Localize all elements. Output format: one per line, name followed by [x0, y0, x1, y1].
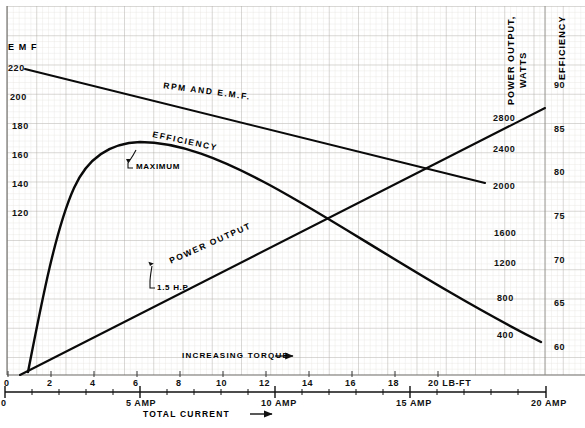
chart-svg — [0, 0, 585, 428]
annotation-maximum: MAXIMUM — [136, 162, 180, 171]
efficiency-tick-90: 90 — [554, 80, 565, 90]
torque-tick-8: 8 — [176, 378, 182, 388]
power-tick-800: 800 — [497, 293, 514, 303]
left-tick-140: 140 — [12, 179, 29, 189]
left-tick-220: 220 — [8, 63, 25, 73]
torque-tick-6: 6 — [133, 378, 139, 388]
chart-canvas: E M F 220 200 180 160 140 120 POWER OUTP… — [0, 0, 585, 428]
power-tick-2800: 2800 — [493, 113, 515, 123]
left-tick-160: 160 — [12, 150, 29, 160]
left-axis-title: E M F — [8, 42, 38, 52]
power-axis-title-2: WATTS — [518, 52, 528, 88]
efficiency-tick-80: 80 — [554, 167, 565, 177]
power-tick-1600: 1600 — [494, 228, 516, 238]
current-tick-20: 20 AMP — [531, 398, 567, 408]
power-tick-2400: 2400 — [493, 144, 515, 154]
left-tick-180: 180 — [12, 121, 29, 131]
torque-tick-18: 18 — [388, 378, 399, 388]
efficiency-axis-title: EFFICIENCY — [557, 15, 567, 80]
annotation-hp: 1.5 H.P. — [157, 283, 190, 292]
current-tick-15: 15 AMP — [396, 398, 432, 408]
torque-tick-0: 0 — [4, 378, 10, 388]
torque-tick-20: 20 LB-FT — [428, 378, 471, 388]
left-tick-120: 120 — [12, 208, 29, 218]
efficiency-tick-85: 85 — [554, 124, 565, 134]
torque-tick-10: 10 — [216, 378, 227, 388]
efficiency-tick-60: 60 — [554, 342, 565, 352]
torque-tick-4: 4 — [90, 378, 96, 388]
power-tick-1200: 1200 — [494, 258, 516, 268]
increasing-torque-caption: INCREASING TORQUE — [182, 351, 289, 360]
efficiency-tick-70: 70 — [554, 255, 565, 265]
efficiency-tick-75: 75 — [554, 211, 565, 221]
left-tick-200: 200 — [10, 92, 27, 102]
torque-tick-16: 16 — [345, 378, 356, 388]
power-tick-400: 400 — [497, 330, 514, 340]
current-tick-5: 5 AMP — [126, 398, 156, 408]
power-axis-title: POWER OUTPUT, — [506, 16, 516, 105]
torque-tick-12: 12 — [259, 378, 270, 388]
torque-tick-2: 2 — [47, 378, 53, 388]
current-tick-0: 0 — [1, 398, 7, 408]
torque-tick-14: 14 — [302, 378, 313, 388]
total-current-caption: TOTAL CURRENT — [143, 409, 230, 419]
current-tick-10: 10 AMP — [261, 398, 297, 408]
power-tick-2000: 2000 — [493, 181, 515, 191]
efficiency-tick-65: 65 — [554, 298, 565, 308]
